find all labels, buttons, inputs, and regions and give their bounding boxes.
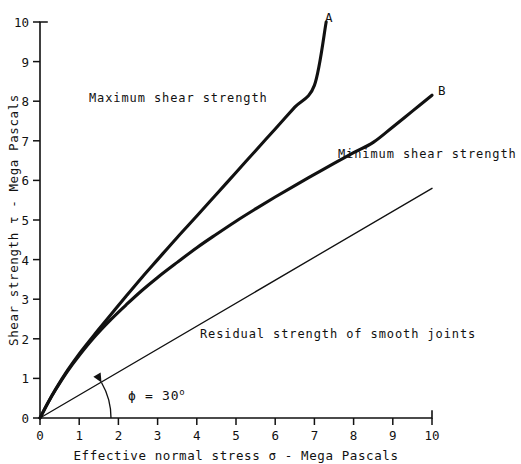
friction-angle-arc <box>101 383 111 419</box>
friction-angle-arrowhead <box>93 373 101 383</box>
x-tick-label: 4 <box>193 428 201 443</box>
maximum-shear-strength-label: Maximum shear strength <box>89 91 268 105</box>
x-axis-line <box>40 411 432 418</box>
x-tick-label: 8 <box>350 428 358 443</box>
x-tick-label: 9 <box>389 428 397 443</box>
degree-symbol: o <box>179 387 185 397</box>
y-tick-label: 4 <box>21 253 29 268</box>
x-axis-tick-labels: 0 1 2 3 4 5 6 7 8 9 10 <box>36 428 439 443</box>
x-tick-label: 0 <box>36 428 44 443</box>
x-axis-title: Effective normal stress σ - Mega Pascals <box>73 448 398 463</box>
y-tick-label: 1 <box>21 371 29 386</box>
x-axis-ticks <box>40 418 432 425</box>
y-tick-label: 9 <box>21 55 29 70</box>
y-tick-label: 5 <box>21 213 29 228</box>
point-a-label: A <box>325 10 333 25</box>
x-tick-label: 1 <box>75 428 83 443</box>
y-tick-label: 2 <box>21 332 29 347</box>
y-tick-label: 3 <box>21 292 29 307</box>
y-tick-label: 6 <box>21 173 29 188</box>
curve-minimum-shear-strength <box>40 95 432 418</box>
x-tick-label: 10 <box>424 428 439 443</box>
plot-area: 10 9 8 7 6 5 4 3 2 1 0 0 1 2 3 4 5 6 7 8… <box>0 0 521 464</box>
curve-maximum-shear-strength <box>40 22 326 418</box>
shear-strength-chart-figure: 10 9 8 7 6 5 4 3 2 1 0 0 1 2 3 4 5 6 7 8… <box>0 0 521 464</box>
y-axis-title: Shear strength τ - Mega Pascals <box>6 94 21 346</box>
minimum-shear-strength-label: Minimum shear strength <box>338 147 517 161</box>
y-tick-label: 10 <box>14 15 29 30</box>
y-axis-ticks <box>33 22 40 418</box>
y-tick-label: 8 <box>21 94 29 109</box>
point-b-label: B <box>438 83 446 98</box>
friction-angle-label: ϕ = 30o <box>128 387 185 403</box>
x-tick-label: 3 <box>154 428 162 443</box>
x-tick-label: 6 <box>271 428 279 443</box>
x-tick-label: 2 <box>115 428 123 443</box>
friction-angle-text: ϕ = 30 <box>128 388 179 403</box>
x-tick-label: 7 <box>311 428 319 443</box>
y-tick-label: 0 <box>21 411 29 426</box>
residual-strength-label: Residual strength of smooth joints <box>200 327 476 341</box>
y-tick-label: 7 <box>21 134 29 149</box>
friction-angle-annotation <box>93 373 111 418</box>
x-tick-label: 5 <box>232 428 240 443</box>
y-axis-line <box>40 22 47 418</box>
data-curves <box>40 22 432 418</box>
